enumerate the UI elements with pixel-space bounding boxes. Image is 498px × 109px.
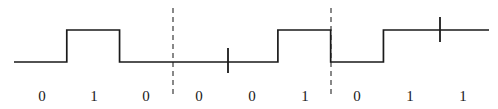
bit-label-0: 0 bbox=[29, 87, 55, 105]
bit-label-1: 1 bbox=[81, 87, 107, 105]
bit-label-6: 0 bbox=[344, 87, 370, 105]
tick-mark-group bbox=[228, 17, 440, 73]
bit-label-8: 1 bbox=[450, 87, 476, 105]
bit-label-5: 1 bbox=[292, 87, 318, 105]
waveform-figure: 010001011 bbox=[0, 0, 498, 109]
bit-label-7: 1 bbox=[397, 87, 423, 105]
bit-label-4: 0 bbox=[239, 87, 265, 105]
bit-label-2: 0 bbox=[133, 87, 159, 105]
dashed-divider-group bbox=[173, 8, 331, 96]
signal-trace bbox=[14, 30, 489, 62]
bit-label-3: 0 bbox=[186, 87, 212, 105]
